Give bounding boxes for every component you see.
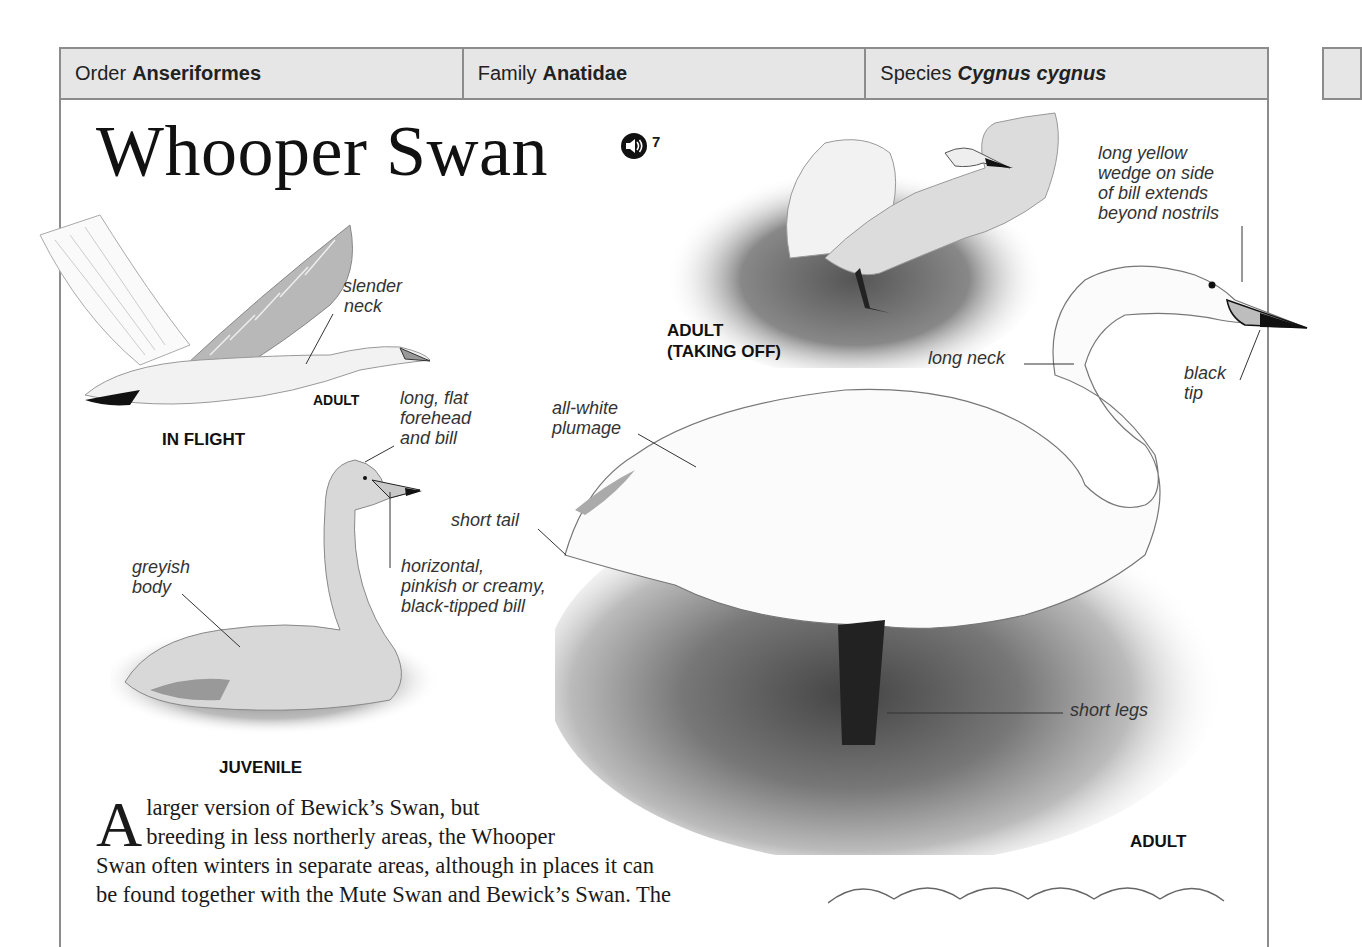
leader-long-neck: [1022, 360, 1082, 368]
annotation-greyish-body: greyish body: [132, 557, 190, 597]
annotation-short-legs: short legs: [1070, 700, 1148, 720]
audio-track[interactable]: 7: [620, 132, 660, 160]
order-value: Anseriformes: [132, 62, 261, 85]
annotation-black-tip: black tip: [1184, 363, 1226, 403]
annotation-line: black-tipped bill: [401, 596, 546, 616]
species-label: Species: [880, 62, 951, 85]
leader-plumage: [636, 432, 702, 472]
caption-juvenile: JUVENILE: [219, 757, 302, 778]
description-text: A larger version of Bewick’s Swan, but b…: [96, 793, 836, 909]
annotation-plumage: all-white plumage: [552, 398, 621, 438]
family-label: Family: [478, 62, 537, 85]
family-value: Anatidae: [543, 62, 627, 85]
caption-adult-flight: ADULT: [313, 390, 359, 411]
next-page-tab: [1322, 47, 1362, 100]
annotation-line: tip: [1184, 383, 1226, 403]
leader-forehead: [360, 440, 400, 470]
species-value: Cygnus cygnus: [958, 62, 1107, 85]
caption-adult: ADULT: [1130, 831, 1186, 852]
leader-black-tip: [1236, 328, 1266, 383]
page-title: Whooper Swan: [96, 108, 548, 194]
text-line: Swan often winters in separate areas, al…: [96, 851, 836, 880]
taxon-family: Family Anatidae: [464, 49, 867, 98]
annotation-line: beyond nostrils: [1098, 203, 1219, 223]
annotation-slender-neck: slender neck: [343, 276, 402, 316]
annotation-juvenile-bill: horizontal, pinkish or creamy, black-tip…: [401, 556, 546, 616]
annotation-line: long yellow: [1098, 143, 1219, 163]
annotation-line: long, flat: [400, 388, 471, 408]
annotation-line: of bill extends: [1098, 183, 1219, 203]
annotation-long-neck: long neck: [928, 348, 1005, 368]
annotation-line: wedge on side: [1098, 163, 1219, 183]
annotation-line: forehead: [400, 408, 471, 428]
annotation-short-tail: short tail: [451, 510, 519, 530]
annotation-line: slender: [343, 276, 402, 296]
annotation-line: all-white: [552, 398, 621, 418]
drop-cap: A: [96, 799, 142, 851]
leader-greyish-body: [180, 592, 250, 652]
wave-divider: [828, 883, 1228, 913]
text-line: breeding in less northerly areas, the Wh…: [96, 822, 836, 851]
annotation-forehead: long, flat forehead and bill: [400, 388, 471, 448]
annotation-line: pinkish or creamy,: [401, 576, 546, 596]
caption-in-flight: IN FLIGHT: [162, 429, 245, 450]
leader-short-legs: [885, 710, 1065, 716]
audio-track-number: 7: [652, 133, 660, 150]
annotation-line: greyish: [132, 557, 190, 577]
leader-short-tail: [536, 527, 572, 559]
annotation-line: neck: [343, 296, 402, 316]
taxon-order: Order Anseriformes: [61, 49, 464, 98]
annotation-line: plumage: [552, 418, 621, 438]
taxon-species: Species Cygnus cygnus: [866, 49, 1267, 98]
taxonomy-bar: Order Anseriformes Family Anatidae Speci…: [59, 47, 1269, 100]
annotation-line: black: [1184, 363, 1226, 383]
annotation-yellow-wedge: long yellow wedge on side of bill extend…: [1098, 143, 1219, 223]
text-line: be found together with the Mute Swan and…: [96, 880, 836, 909]
order-label: Order: [75, 62, 126, 85]
leader-bill: [385, 490, 395, 570]
annotation-line: and bill: [400, 428, 471, 448]
leader-slender-neck: [300, 312, 340, 372]
leader-yellow-wedge: [1238, 224, 1246, 284]
annotation-line: horizontal,: [401, 556, 546, 576]
adult-photo: [555, 255, 1315, 855]
text-line: larger version of Bewick’s Swan, but: [96, 793, 836, 822]
speaker-icon[interactable]: [620, 132, 648, 160]
